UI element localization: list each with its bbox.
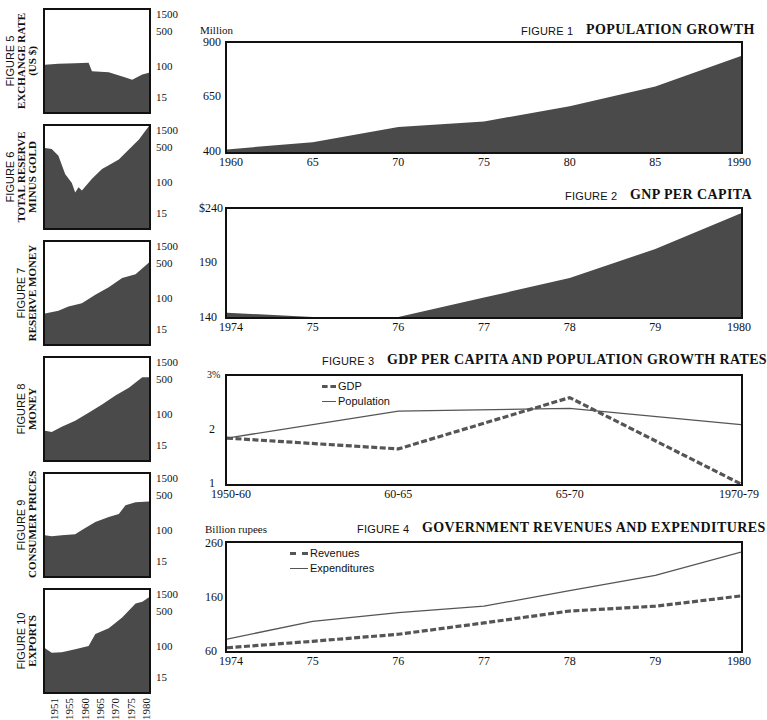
fig3-ytick: 3% [207, 369, 220, 381]
fig4-title: GOVERNMENT REVENUES AND EXPENDITURES [422, 520, 766, 536]
fig4-ytick: 160 [205, 591, 223, 603]
fig3-ytick: 2 [209, 423, 215, 435]
fig9-plot-area [43, 472, 151, 578]
year-tick-label: 1955 [63, 698, 75, 720]
y-tick-label: 15 [156, 324, 167, 335]
x-tick-label: 75 [307, 321, 319, 333]
x-tick-label: 76 [392, 321, 404, 333]
fig6-vertical-label: FIGURE 6TOTAL RESERVEMINUS GOLD [5, 124, 38, 230]
fig2-label: FIGURE 2 [565, 190, 617, 202]
dashed-line-swatch-icon [322, 385, 336, 388]
x-tick-label: 1990 [727, 156, 751, 168]
area-series [45, 597, 149, 692]
year-tick-label: 1951 [48, 698, 60, 720]
fig9-vertical-label: FIGURE 9CONSUMER PRICES [16, 472, 38, 578]
year-tick-label: 1975 [125, 698, 137, 720]
y-tick-label: 15 [156, 92, 167, 103]
y-tick-label: 100 [156, 61, 173, 72]
x-tick-label: 1980 [727, 321, 751, 333]
line-series-revenues [227, 596, 741, 648]
fig2-ytick: 190 [199, 256, 217, 268]
legend-label: Expenditures [310, 562, 374, 574]
x-tick-label: 75 [478, 156, 490, 168]
legend-label: GDP [338, 380, 362, 392]
x-tick-label: 1980 [727, 655, 751, 667]
x-tick-label: 60-65 [384, 488, 412, 500]
y-tick-label: 100 [156, 525, 173, 536]
y-tick-label: 500 [156, 606, 173, 617]
fig3-legend-gdp: GDP [322, 380, 362, 392]
x-tick-label: 80 [564, 156, 576, 168]
y-tick-label: 100 [156, 293, 173, 304]
x-tick-label: 1970-79 [719, 488, 759, 500]
year-tick-label: 1980 [140, 698, 152, 720]
fig1-title: POPULATION GROWTH [586, 22, 755, 38]
x-tick-label: 70 [392, 156, 404, 168]
figure-title: MONEY [27, 356, 38, 462]
x-tick-label: 77 [478, 321, 490, 333]
fig3-legend-population: Population [322, 395, 390, 407]
fig3-title: GDP PER CAPITA AND POPULATION GROWTH RAT… [387, 352, 767, 368]
fig2-ytick: $240 [199, 202, 223, 214]
y-tick-label: 1500 [156, 357, 178, 368]
legend-label: Population [338, 395, 390, 407]
area-series [45, 262, 149, 344]
fig2-plot-area [225, 207, 743, 319]
x-tick-label: 65 [307, 156, 319, 168]
fig6-plot-area [43, 124, 151, 230]
year-tick-label: 1970 [109, 698, 121, 720]
area-series [45, 126, 149, 228]
x-tick-label: 75 [307, 655, 319, 667]
fig5-vertical-label: FIGURE 5EXCHANGE RATE(US $) [5, 8, 38, 114]
x-tick-label: 65-70 [556, 488, 584, 500]
fig2-title: GNP PER CAPITA [630, 187, 752, 203]
fig1-plot-area [225, 41, 743, 154]
y-tick-label: 100 [156, 409, 173, 420]
solid-line-swatch-icon [322, 401, 336, 402]
fig4-ytick: 60 [205, 645, 217, 657]
y-tick-label: 100 [156, 641, 173, 652]
fig3-label: FIGURE 3 [322, 355, 374, 367]
area-series [45, 377, 149, 460]
y-tick-label: 500 [156, 258, 173, 269]
fig10-vertical-label: FIGURE 10EXPORTS [16, 588, 38, 694]
y-tick-label: 1500 [156, 241, 178, 252]
fig1-label: FIGURE 1 [521, 25, 573, 37]
fig10-plot-area [43, 588, 151, 694]
fig4-legend-revenues: Revenues [290, 547, 360, 559]
y-tick-label: 500 [156, 490, 173, 501]
fig1-ytick: 900 [203, 36, 221, 48]
area-series [45, 63, 149, 112]
x-tick-label: 1974 [219, 321, 243, 333]
figure-title: CONSUMER PRICES [27, 472, 38, 578]
fig2-ytick: 140 [199, 311, 217, 323]
y-tick-label: 15 [156, 672, 167, 683]
x-tick-label: 79 [649, 655, 661, 667]
fig4-ytick: 260 [205, 537, 223, 549]
year-tick-label: 1965 [94, 698, 106, 720]
x-tick-label: 79 [649, 321, 661, 333]
y-tick-label: 500 [156, 26, 173, 37]
y-tick-label: 1500 [156, 9, 178, 20]
line-series-gdp [227, 398, 741, 484]
y-tick-label: 15 [156, 440, 167, 451]
fig4-label: FIGURE 4 [357, 523, 409, 535]
area-series [227, 213, 741, 317]
figure-title: EXPORTS [27, 588, 38, 694]
x-tick-label: 1960 [219, 156, 243, 168]
legend-label: Revenues [310, 547, 360, 559]
x-tick-label: 1950-60 [211, 488, 251, 500]
figure-title: MINUS GOLD [27, 124, 38, 230]
figure-title: RESERVE MONEY [27, 240, 38, 346]
x-tick-label: 78 [564, 321, 576, 333]
x-tick-label: 76 [392, 655, 404, 667]
area-series [227, 56, 741, 152]
y-tick-label: 1500 [156, 125, 178, 136]
figure-title: (US $) [27, 8, 38, 114]
fig8-vertical-label: FIGURE 8MONEY [16, 356, 38, 462]
y-tick-label: 100 [156, 177, 173, 188]
fig3-plot-area [225, 374, 743, 486]
x-tick-label: 78 [564, 655, 576, 667]
y-tick-label: 15 [156, 208, 167, 219]
y-tick-label: 1500 [156, 589, 178, 600]
